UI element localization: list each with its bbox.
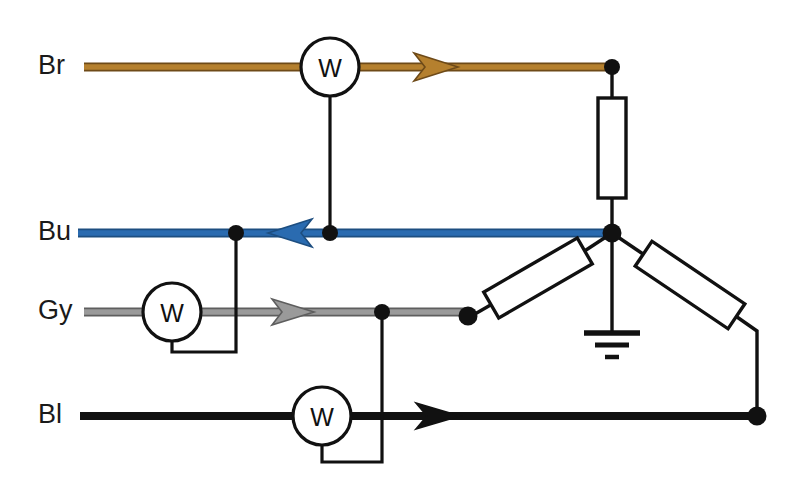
phase-label-bl: Bl	[38, 399, 62, 429]
node-star	[603, 224, 622, 243]
phase-label-gy: Gy	[38, 295, 73, 325]
node-bl-right	[748, 407, 767, 426]
wattmeter-brown[interactable]: W	[301, 38, 359, 96]
resistor-diagonal-right	[635, 241, 745, 329]
wattmeter-black-label: W	[310, 403, 334, 431]
wattmeter-brown-label: W	[318, 54, 342, 82]
lead-diagonal-right-lower	[737, 317, 757, 416]
phase-label-bu: Bu	[38, 216, 71, 246]
node-br-right	[604, 59, 620, 75]
wattmeter-gray[interactable]: W	[143, 283, 201, 341]
wattmeter-black[interactable]: W	[293, 387, 351, 445]
phase-wire-black	[80, 403, 757, 429]
ground-symbol	[584, 233, 640, 357]
circuit-canvas: W W W Br Bu Gy Bl	[0, 0, 792, 484]
circuit-diagram: W W W Br Bu Gy Bl	[0, 0, 792, 484]
phase-label-br: Br	[38, 50, 65, 80]
node-bu-mid	[322, 225, 338, 241]
resistor-diagonal-left	[484, 238, 593, 318]
node-gy-mid	[374, 304, 390, 320]
node-bu-left	[228, 225, 244, 241]
node-gy-right	[459, 307, 478, 326]
phase-wire-blue	[78, 219, 612, 247]
wattmeter-gray-label: W	[160, 299, 184, 327]
resistor-vertical	[598, 98, 626, 198]
